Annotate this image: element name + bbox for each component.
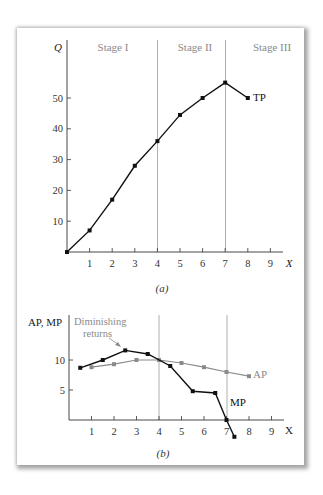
y-ticks-a: 1020304050 (53, 93, 72, 227)
y-tick-label: 10 (53, 216, 64, 227)
mp-label: MP (230, 396, 246, 408)
mp-point (225, 418, 229, 422)
mp-point (78, 366, 82, 370)
x-tick-label: 9 (269, 426, 274, 437)
production-stages-figure: Stage I Stage II Stage III Q 1020304050 … (0, 0, 323, 495)
annotation-line1: Diminishing (74, 316, 127, 327)
mp-point (101, 358, 105, 362)
mp-line (80, 350, 234, 436)
x-axis-title-b: X (285, 424, 293, 436)
tp-point (65, 250, 69, 254)
x-tick-label: 3 (132, 258, 137, 269)
y-tick-label: 20 (53, 185, 64, 196)
ap-point (135, 358, 139, 362)
ap-point (180, 361, 184, 365)
tp-point (133, 164, 137, 168)
mp-point (168, 364, 172, 368)
tp-point (223, 81, 227, 85)
tp-point (110, 198, 114, 202)
mp-point (232, 435, 236, 439)
y-ticks-b: 510 (55, 355, 74, 396)
x-tick-label: 9 (268, 258, 273, 269)
ap-point (90, 365, 94, 369)
x-tick-label: 6 (201, 426, 206, 437)
x-ticks-b: 123456789 (89, 416, 274, 437)
y-tick-label: 40 (53, 123, 64, 134)
mp-point (123, 348, 127, 352)
x-tick-label: 3 (134, 426, 139, 437)
x-tick-label: 7 (223, 258, 228, 269)
x-tick-label: 8 (246, 426, 251, 437)
y-tick-label: 10 (55, 355, 66, 366)
caption-a: (a) (156, 282, 169, 295)
y-tick-label: 50 (53, 93, 64, 104)
tp-point (88, 228, 92, 232)
y-tick-label: 30 (53, 154, 64, 165)
caption-b: (b) (157, 447, 170, 460)
x-tick-label: 4 (156, 426, 162, 437)
tp-point (155, 139, 159, 143)
x-axis-title-a: X (285, 257, 294, 269)
ap-point (247, 374, 251, 378)
x-tick-label: 8 (245, 258, 250, 269)
x-tick-label: 4 (155, 258, 161, 269)
x-tick-label: 2 (111, 426, 116, 437)
ap-point (202, 365, 206, 369)
x-tick-label: 1 (87, 258, 92, 269)
tp-label: TP (253, 91, 266, 103)
x-ticks-a: 123456789 (87, 248, 273, 269)
mp-point (191, 389, 195, 393)
mp-point (146, 352, 150, 356)
x-tick-label: 5 (177, 258, 182, 269)
y-axis-title-b: AP, MP (28, 316, 62, 328)
x-tick-label: 1 (89, 426, 94, 437)
stage-2-label: Stage II (178, 41, 213, 53)
stage-3-label: Stage III (253, 41, 292, 53)
x-tick-label: 5 (179, 426, 184, 437)
tp-point (201, 96, 205, 100)
ap-point (225, 370, 229, 374)
ap-point (112, 362, 116, 366)
tp-point (246, 96, 250, 100)
annotation-line2: returns (83, 328, 112, 339)
mp-point (213, 391, 217, 395)
ap-label: AP (253, 368, 267, 380)
x-tick-label: 6 (200, 258, 205, 269)
chart-b: AP, MP Diminishing returns 510 123456789… (28, 315, 293, 460)
stage-1-label: Stage I (98, 41, 129, 53)
y-tick-label: 5 (60, 385, 65, 396)
chart-a: Stage I Stage II Stage III Q 1020304050 … (53, 40, 294, 295)
tp-point (178, 113, 182, 117)
x-tick-label: 2 (110, 258, 115, 269)
x-tick-label: 7 (224, 426, 229, 437)
y-axis-title-a: Q (54, 41, 62, 53)
